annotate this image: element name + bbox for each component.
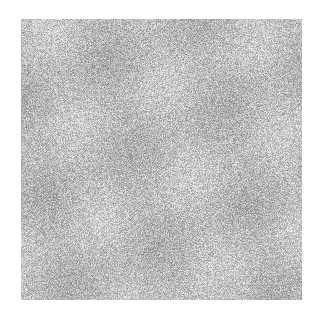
stage xyxy=(0,0,318,314)
noise-texture-image xyxy=(21,19,302,300)
